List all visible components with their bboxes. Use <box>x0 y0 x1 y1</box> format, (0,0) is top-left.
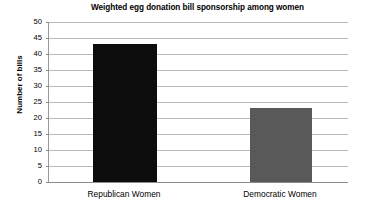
bar-republican-women <box>93 44 157 182</box>
y-tick-label-10: 10 <box>2 146 42 154</box>
y-tick-label-25: 25 <box>2 98 42 106</box>
y-tick-mark-50 <box>46 22 49 23</box>
y-tick-label-40: 40 <box>2 50 42 58</box>
gridline-45 <box>49 38 348 39</box>
y-tick-mark-15 <box>46 134 49 135</box>
gridline-50 <box>49 22 348 23</box>
y-tick-label-30: 30 <box>2 82 42 90</box>
y-tick-label-20: 20 <box>2 114 42 122</box>
y-tick-label-0: 0 <box>2 178 42 186</box>
y-tick-label-35: 35 <box>2 66 42 74</box>
bar-democratic-women <box>250 108 312 182</box>
y-tick-label-15: 15 <box>2 130 42 138</box>
y-tick-label-50: 50 <box>2 18 42 26</box>
y-tick-mark-20 <box>46 118 49 119</box>
y-tick-mark-35 <box>46 70 49 71</box>
y-tick-mark-45 <box>46 38 49 39</box>
plot-area: 50454035302520151050 <box>48 22 348 182</box>
y-tick-label-45: 45 <box>2 34 42 42</box>
y-tick-mark-30 <box>46 86 49 87</box>
x-axis-label-republican-women: Republican Women <box>64 189 184 199</box>
y-tick-mark-40 <box>46 54 49 55</box>
y-tick-mark-25 <box>46 102 49 103</box>
x-axis-label-democratic-women: Democratic Women <box>220 189 340 199</box>
y-tick-mark-10 <box>46 150 49 151</box>
y-tick-label-5: 5 <box>2 162 42 170</box>
y-tick-mark-5 <box>46 166 49 167</box>
bar-chart: Weighted egg donation bill sponsorship a… <box>0 0 375 210</box>
y-tick-mark-0 <box>46 182 49 183</box>
chart-title: Weighted egg donation bill sponsorship a… <box>48 3 347 13</box>
